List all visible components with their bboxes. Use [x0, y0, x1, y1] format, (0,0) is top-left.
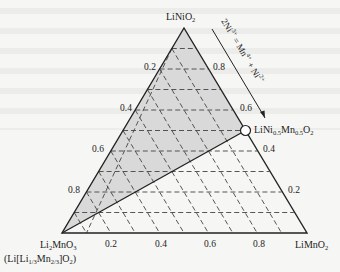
- left-tick-0.4: 0.4: [120, 104, 132, 114]
- left-tick-0.6: 0.6: [92, 145, 104, 155]
- shaded-region: [62, 28, 246, 233]
- vertex-label-li2mno3: Li2MnO3: [40, 240, 77, 252]
- right-tick-0.2: 0.2: [288, 186, 300, 196]
- bottom-tick-0.4: 0.4: [155, 240, 167, 250]
- left-tick-0.8: 0.8: [68, 186, 80, 196]
- right-tick-0.4: 0.4: [263, 145, 275, 155]
- vertex-label-lini02: LiNiO2: [166, 12, 195, 24]
- bottom-tick-0.8: 0.8: [253, 240, 265, 250]
- point-label-lini05mn05o2: LiNi0.5Mn0.5O2: [254, 125, 314, 137]
- arrow-label: 2Ni3+ = Mn4+ + Ni2+: [219, 16, 267, 85]
- bottom-tick-0.2: 0.2: [105, 240, 117, 250]
- right-tick-0.8: 0.8: [213, 63, 225, 73]
- vertex-label-limno2: LiMnO2: [295, 240, 328, 252]
- bottom-tick-0.6: 0.6: [204, 240, 216, 250]
- left-tick-0.2: 0.2: [144, 63, 156, 73]
- right-tick-0.6: 0.6: [240, 104, 252, 114]
- vertex-label-li2mno3-alt: (Li[Li1/3Mn2/3]O2): [4, 254, 76, 266]
- composition-point-marker: [241, 126, 251, 136]
